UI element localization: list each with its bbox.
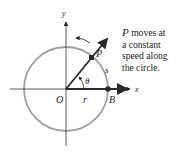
angle-theta-label: θ: [85, 76, 90, 86]
angle-theta-arc: [79, 77, 84, 89]
point-p-label: P: [95, 48, 102, 59]
point-b-marker: [105, 86, 111, 92]
motion-caption: P moves at a constant speed along the ci…: [122, 27, 186, 73]
arc-length-label: s: [105, 65, 109, 75]
point-b-label: B: [109, 94, 115, 105]
y-axis-label: y: [61, 9, 66, 18]
point-p-marker: [89, 55, 94, 60]
caption-line-1: moves at: [129, 27, 166, 38]
counterclockwise-direction-arrow: [76, 38, 90, 43]
caption-line-2: a constant: [122, 39, 186, 51]
origin-label: O: [56, 94, 63, 105]
caption-subject: P: [122, 26, 129, 38]
radius-label: r: [83, 94, 87, 105]
circular-motion-diagram: y x O r B P s θ: [0, 0, 186, 160]
x-axis-label: x: [134, 85, 139, 94]
caption-line-4: the circle.: [122, 62, 186, 74]
caption-line-3: speed along: [122, 50, 186, 62]
